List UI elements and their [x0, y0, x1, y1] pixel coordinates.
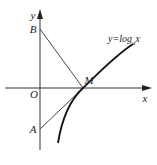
curve-label-suffix: x — [134, 33, 140, 44]
origin-label: O — [30, 88, 38, 100]
x-axis-label: x — [142, 92, 148, 104]
log-curve — [58, 44, 133, 143]
y-axis-label: y — [30, 9, 36, 21]
segment-bm — [40, 29, 83, 88]
point-b-label: B — [30, 23, 37, 35]
y-axis-arrow-icon — [37, 9, 43, 19]
curve-label: y=logax — [107, 33, 140, 47]
point-m-label: M — [83, 74, 94, 86]
point-a-label: A — [29, 123, 37, 135]
x-axis-arrow-icon — [142, 85, 152, 91]
diagram: y x O B A M y=logax — [0, 0, 157, 165]
curve-label-prefix: y=log — [107, 33, 132, 44]
